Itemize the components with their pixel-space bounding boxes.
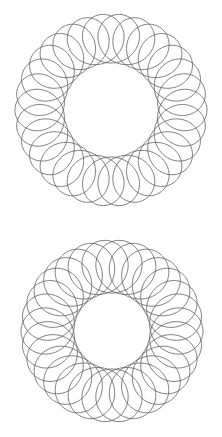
top-spirograph <box>15 14 207 205</box>
spirograph-drawing <box>0 0 222 437</box>
bottom-spirograph <box>21 240 203 421</box>
spirograph-curve <box>21 240 203 421</box>
spirograph-curve <box>15 14 207 205</box>
